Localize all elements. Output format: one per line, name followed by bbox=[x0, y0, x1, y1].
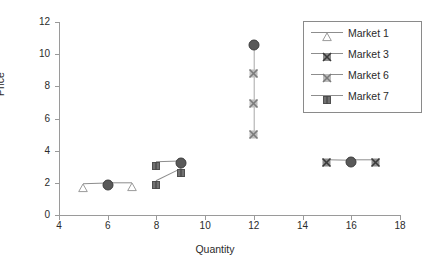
circle-marker-icon bbox=[248, 37, 260, 49]
x-marker-icon bbox=[322, 69, 333, 80]
y-axis-title: Price bbox=[0, 72, 6, 96]
legend-marker-key bbox=[311, 68, 343, 82]
y-tick-label: 10 bbox=[28, 49, 50, 59]
legend-item[interactable]: Market 7 bbox=[304, 85, 421, 106]
x-marker-icon bbox=[321, 154, 332, 165]
circle-marker-icon bbox=[102, 177, 114, 189]
y-tick-label: 8 bbox=[28, 81, 50, 91]
triangle-marker-icon bbox=[78, 179, 88, 189]
x-marker-icon bbox=[248, 95, 259, 106]
x-tick-label: 18 bbox=[389, 221, 411, 231]
x-tick-label: 4 bbox=[48, 221, 70, 231]
x-tick-label: 10 bbox=[194, 221, 216, 231]
square-marker-icon bbox=[322, 91, 332, 101]
x-tick-label: 16 bbox=[340, 221, 362, 231]
square-marker-icon bbox=[151, 176, 161, 186]
chart-legend: Market 1Market 3Market 6Market 7 bbox=[303, 21, 422, 113]
x-tick-label: 6 bbox=[97, 221, 119, 231]
legend-marker-key bbox=[311, 89, 343, 103]
x-marker-icon bbox=[322, 48, 333, 59]
y-tick-label: 12 bbox=[28, 17, 50, 27]
y-tick-label: 2 bbox=[28, 178, 50, 188]
x-axis-line bbox=[59, 215, 401, 216]
circle-marker-icon bbox=[345, 154, 357, 166]
legend-item-label: Market 3 bbox=[348, 48, 389, 60]
legend-marker-key bbox=[311, 47, 343, 61]
x-tick-label: 12 bbox=[243, 221, 265, 231]
legend-marker-key bbox=[311, 26, 343, 40]
x-axis-title: Quantity bbox=[0, 243, 430, 255]
x-marker-icon bbox=[370, 154, 381, 165]
scatter-chart: 024681012 4681012141618 Quantity Price M… bbox=[0, 0, 430, 268]
triangle-marker-icon bbox=[322, 28, 332, 38]
x-tick-label: 14 bbox=[292, 221, 314, 231]
triangle-marker-icon bbox=[127, 178, 137, 188]
y-tick-label: 4 bbox=[28, 146, 50, 156]
legend-item[interactable]: Market 6 bbox=[304, 64, 421, 85]
x-marker-icon bbox=[248, 126, 259, 137]
legend-item-label: Market 6 bbox=[348, 69, 389, 81]
legend-item-label: Market 7 bbox=[348, 90, 389, 102]
x-marker-icon bbox=[248, 65, 259, 76]
y-tick-label: 6 bbox=[28, 114, 50, 124]
x-tick-label: 8 bbox=[145, 221, 167, 231]
square-marker-icon bbox=[176, 164, 186, 174]
legend-item[interactable]: Market 1 bbox=[304, 22, 421, 43]
y-tick-label: 0 bbox=[28, 210, 50, 220]
square-marker-icon bbox=[151, 157, 161, 167]
legend-item[interactable]: Market 3 bbox=[304, 43, 421, 64]
legend-item-label: Market 1 bbox=[348, 27, 389, 39]
